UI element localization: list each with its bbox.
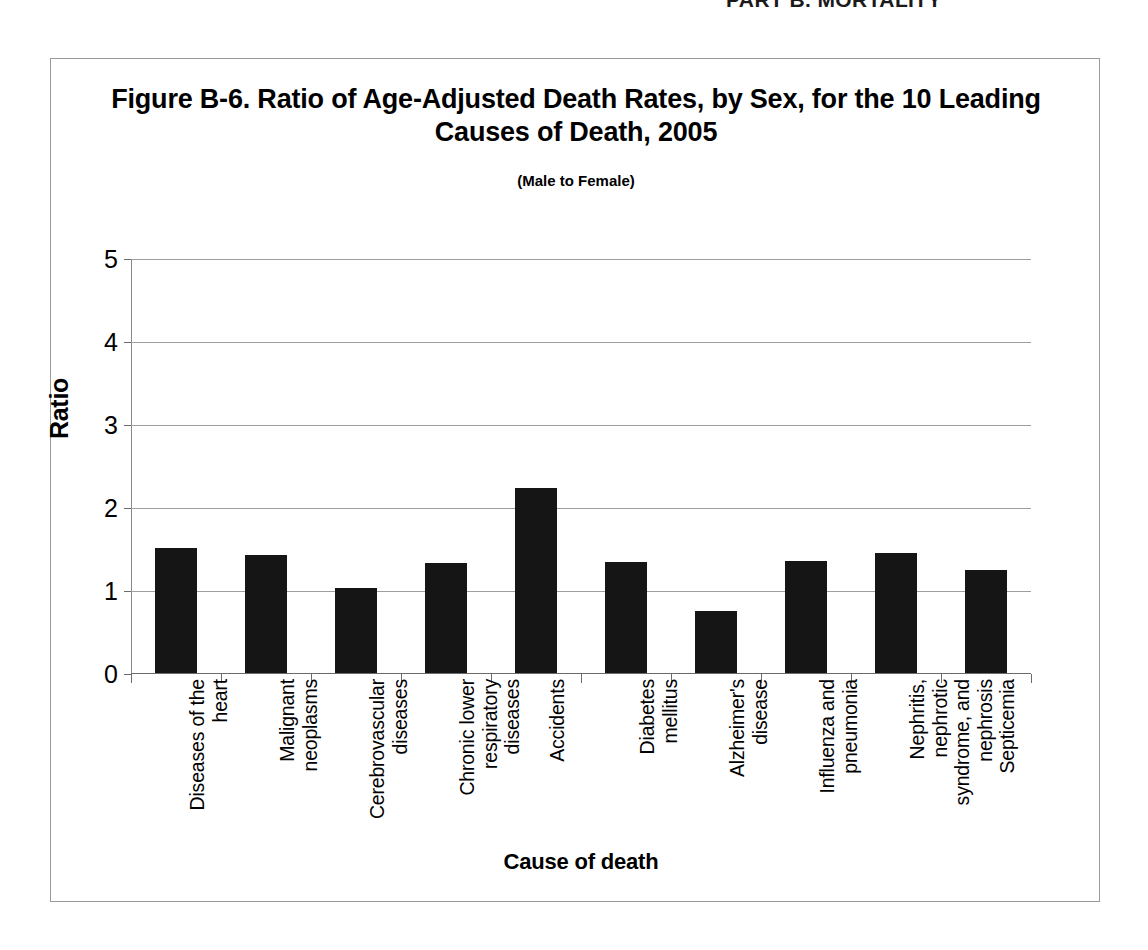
x-axis-category-label: Alzheimer's disease (726, 679, 771, 849)
x-axis-category-label: Chronic lower respiratory diseases (456, 679, 524, 849)
x-axis-tick (1031, 674, 1032, 683)
x-axis-category-label: Cerebrovascular diseases (366, 679, 411, 849)
y-axis-tick (124, 259, 131, 260)
x-axis-category-labels: Diseases of the heartMalignant neoplasms… (131, 679, 1031, 849)
bar (695, 611, 737, 673)
y-axis-tick-label: 0 (104, 660, 118, 689)
bar (155, 548, 197, 673)
y-axis-tick-label: 4 (104, 328, 118, 357)
x-axis-category-label: Septicemia (996, 679, 1019, 849)
x-axis-category-label: Diseases of the heart (186, 679, 231, 849)
bar (965, 570, 1007, 673)
y-axis-title: Ratio (45, 378, 74, 439)
bar (785, 561, 827, 673)
page-running-header: PART B. MORTALITY (0, 0, 1148, 14)
y-axis-tick-label: 2 (104, 494, 118, 523)
bar (605, 562, 647, 673)
x-axis-category-label: Diabetes mellitus (636, 679, 681, 849)
x-axis-category-label: Nephritis, nephrotic syndrome, and nephr… (906, 679, 996, 849)
bar (425, 563, 467, 673)
x-axis-category-label: Accidents (546, 679, 569, 849)
chart-title: Figure B-6. Ratio of Age-Adjusted Death … (111, 83, 1041, 149)
bar-series (131, 259, 1031, 674)
x-axis-category-label: Influenza and pneumonia (816, 679, 861, 849)
page-header-text: PART B. MORTALITY (560, 0, 1108, 12)
x-axis-category-label: Malignant neoplasms (276, 679, 321, 849)
y-axis-tick (124, 591, 131, 592)
y-axis-tick (124, 674, 131, 675)
y-axis-tick-label: 3 (104, 411, 118, 440)
bar (245, 555, 287, 673)
y-axis-tick-label: 5 (104, 245, 118, 274)
y-axis-tick-label: 1 (104, 577, 118, 606)
bar (515, 488, 557, 673)
bar (875, 553, 917, 673)
figure-frame: Figure B-6. Ratio of Age-Adjusted Death … (50, 58, 1100, 902)
bar (335, 588, 377, 673)
y-axis-tick (124, 508, 131, 509)
plot-area: 012345 (131, 259, 1031, 674)
y-axis-tick (124, 425, 131, 426)
x-axis-title: Cause of death (131, 849, 1031, 875)
y-axis-tick (124, 342, 131, 343)
chart-subtitle: (Male to Female) (111, 172, 1041, 189)
